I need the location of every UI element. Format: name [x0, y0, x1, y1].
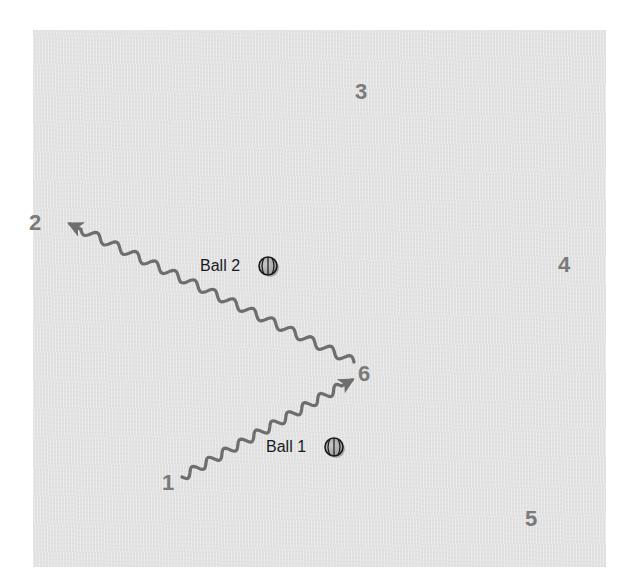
- position-label-4: 4: [558, 254, 570, 276]
- wavy-arrow-1-to-6: [182, 380, 352, 479]
- position-label-1: 1: [162, 472, 174, 494]
- position-label-2: 2: [29, 212, 41, 234]
- position-label-6: 6: [358, 363, 370, 385]
- ball-2-label: Ball 2: [200, 258, 240, 274]
- position-label-3: 3: [355, 81, 367, 103]
- basketball-icon: [325, 438, 345, 458]
- basketball-icon: [259, 257, 279, 277]
- ball-1-label: Ball 1: [266, 439, 306, 455]
- diagram-canvas: [0, 0, 624, 585]
- position-label-5: 5: [525, 508, 537, 530]
- wavy-arrow-6-to-2: [70, 224, 354, 362]
